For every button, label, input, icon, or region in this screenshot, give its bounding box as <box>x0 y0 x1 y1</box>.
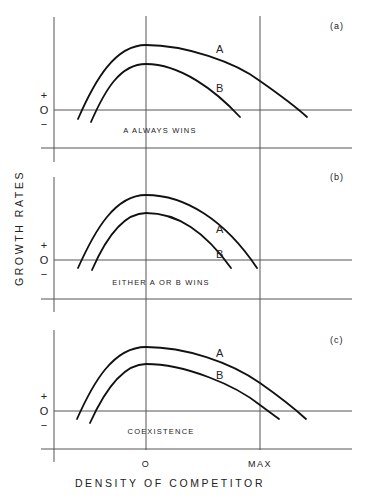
curve-label-b: B <box>216 369 223 381</box>
zero-sign: O <box>40 104 49 116</box>
panel-a: A B (a) A ALWAYS WINS + O − <box>40 17 352 162</box>
plus-sign: + <box>41 89 47 101</box>
panel-caption: COEXISTENCE <box>128 427 195 436</box>
minus-sign: − <box>41 419 47 431</box>
curve-b <box>90 364 279 423</box>
panel-c: A B (c) COEXISTENCE + O − <box>40 330 352 462</box>
curve-label-a: A <box>216 43 224 55</box>
curve-label-a: A <box>216 347 224 359</box>
panel-tag: (a) <box>330 21 344 31</box>
competition-figure: A B (a) A ALWAYS WINS + O − A B (b) EITH… <box>0 0 366 500</box>
minus-sign: − <box>41 118 47 130</box>
curve-a <box>77 347 306 419</box>
panel-tag: (c) <box>330 335 344 345</box>
x-tick-zero: O <box>142 459 151 469</box>
panel-b: A B (b) EITHER A OR B WINS + O − <box>40 172 352 312</box>
curve-label-b: B <box>216 82 223 94</box>
panel-caption: EITHER A OR B WINS <box>112 278 209 287</box>
y-axis-title: GROWTH RATES <box>13 170 25 286</box>
x-axis-title: DENSITY OF COMPETITOR <box>75 477 265 489</box>
zero-sign: O <box>40 405 49 417</box>
panel-caption: A ALWAYS WINS <box>123 126 196 135</box>
curve-label-a: A <box>216 223 224 235</box>
zero-sign: O <box>40 254 49 266</box>
plus-sign: + <box>41 239 47 251</box>
curve-label-b: B <box>216 248 223 260</box>
x-tick-max: MAX <box>248 459 272 469</box>
plus-sign: + <box>41 390 47 402</box>
panel-tag: (b) <box>330 172 344 182</box>
minus-sign: − <box>41 268 47 280</box>
curve-b <box>92 213 231 270</box>
curve-a <box>78 195 257 268</box>
